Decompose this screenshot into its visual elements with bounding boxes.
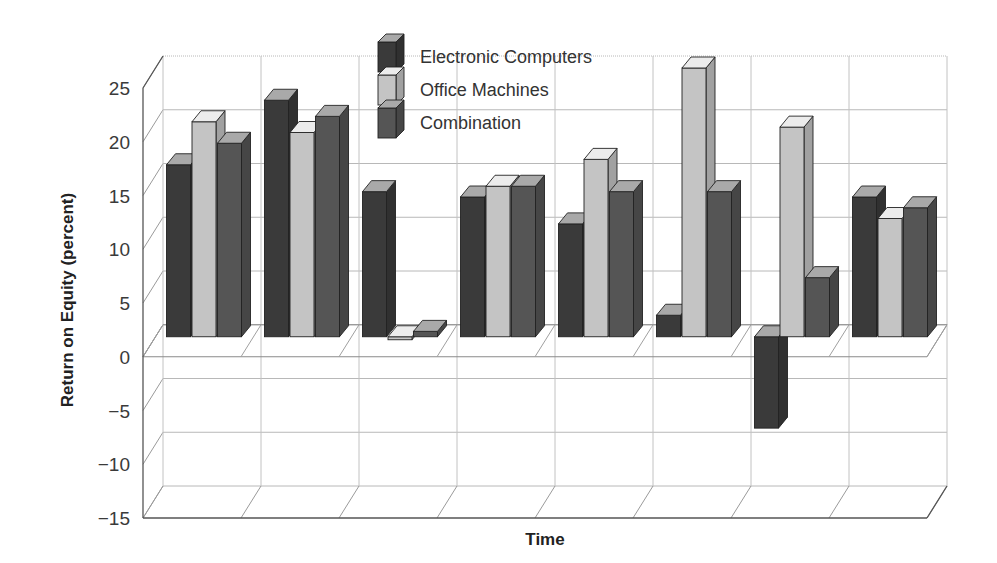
x-axis-title: Time: [525, 530, 564, 549]
bar: [755, 326, 788, 428]
side-gridline: [143, 217, 163, 249]
floor-gridline: [633, 486, 653, 518]
axis-top-diagonal: [143, 56, 163, 88]
y-tick-label: 5: [119, 293, 130, 314]
y-tick-label: 0: [119, 347, 130, 368]
y-tick-label: 20: [109, 132, 130, 153]
legend-item: Electronic Computers: [378, 34, 592, 72]
legend-label: Electronic Computers: [420, 47, 592, 67]
bar: [363, 181, 396, 337]
legend-item: Office Machines: [378, 67, 549, 105]
side-gridline: [143, 164, 163, 196]
bar: [904, 197, 937, 337]
bar: [708, 181, 741, 337]
chart-legend: Electronic ComputersOffice MachinesCombi…: [378, 34, 592, 138]
y-tick-label: −5: [108, 401, 130, 422]
floor-gridline: [339, 486, 359, 518]
side-gridline: [143, 110, 163, 142]
y-tick-label: 10: [109, 239, 130, 260]
y-tick-label: −15: [98, 508, 130, 529]
floor-gridline: [241, 486, 261, 518]
bar: [512, 175, 545, 337]
floor-gridline: [829, 486, 849, 518]
bar: [316, 105, 349, 336]
bar-chart: 2520151050−5−10−15 Electronic ComputersO…: [0, 0, 997, 563]
side-gridline: [143, 432, 163, 464]
y-axis-title: Return on Equity (percent): [58, 193, 77, 407]
floor-gridline: [731, 486, 751, 518]
side-gridline: [143, 271, 163, 303]
y-tick-label: 15: [109, 186, 130, 207]
axis-bottom-diagonal: [927, 486, 947, 518]
legend-item: Combination: [378, 100, 521, 138]
side-gridline: [143, 379, 163, 411]
y-tick-label: 25: [109, 78, 130, 99]
y-axis-ticks: 2520151050−5−10−15: [98, 78, 130, 529]
chart-bars: [167, 57, 937, 428]
floor-gridline: [535, 486, 555, 518]
bar: [806, 267, 839, 337]
bar: [414, 320, 447, 336]
zero-plane-gridline: [143, 325, 163, 357]
legend-label: Combination: [420, 113, 521, 133]
bar: [610, 181, 643, 337]
legend-label: Office Machines: [420, 80, 549, 100]
y-tick-label: −10: [98, 454, 130, 475]
bar: [218, 132, 251, 337]
floor-gridline: [143, 486, 163, 518]
floor-gridline: [437, 486, 457, 518]
